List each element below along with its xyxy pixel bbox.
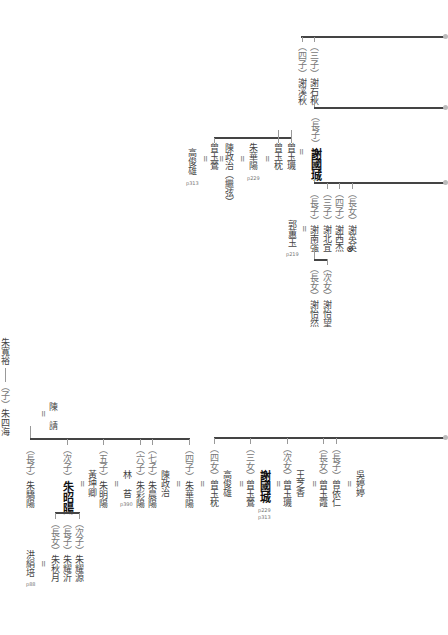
marriage-symbol: = [299,225,309,233]
person-xie-yiran: （長女）謝怡然 [309,264,319,327]
person-zhu-yaoyi: （長子）朱耀沂 [62,519,72,582]
person-wu-tingting: 吳婷婷 [355,470,365,497]
top-generation-line [301,36,446,38]
generation-line [55,512,80,514]
person-xie-guocheng: （長子）謝國城 [309,112,321,181]
deceased-mark-icon: ⊗ [346,244,354,254]
person-xie-yingying: （長女）謝英英 [347,189,357,252]
person-zhu-caiyang: （六子）朱彩陽 [135,445,145,508]
person-xie-guocheng-b: 謝國城 [258,470,270,503]
page-ref: p313 [258,514,271,520]
person-zeng-yuji: 曾玉璣 [286,143,296,170]
marriage-symbol: = [38,410,48,418]
person-zhu-jiaoyang: （長子）朱驕陽 [25,445,35,508]
connector [291,130,292,143]
person-zhu-sihai: （子）朱四海 [0,382,10,436]
marriage-symbol: = [38,560,48,568]
marriage-symbol: = [237,155,247,163]
person-zhu-kuanyu: 朱寬裕 [0,338,10,365]
page-ref: p229 [247,175,260,181]
continuation-marker [443,435,448,440]
person-xie-nanqiang: （長子）謝南強 [309,189,319,252]
marriage-symbol: = [173,480,183,488]
generation-line [30,438,190,440]
person-guo-huiyu: 郭蕙玉 [287,220,297,247]
generation-line [314,107,446,109]
generation-line [314,182,446,184]
page-ref: p313 [186,180,199,186]
spouse-bracket [214,137,292,139]
marriage-symbol: = [262,155,272,163]
generation-line [214,437,446,439]
person-gao-junxiong: 高俊雄 [187,148,197,175]
connector [278,130,279,143]
page-ref: p219 [286,251,299,257]
page-ref: p88 [26,581,36,587]
person-zeng-yuying-b: （三女）曾玉鶯 [245,444,255,507]
person-xie-xijie: （四子）謝西杰 [334,189,344,252]
person-zhu-huayang-b: （四子）朱華陽 [184,445,194,508]
person-zhu-qiuyue: （長女）朱秋月 [50,519,60,582]
person-lin-tai: 林 苔 [122,470,132,498]
continuation-marker [443,180,448,185]
connector [314,246,315,260]
continuation-marker [443,105,448,110]
person-zeng-yuzhen: 曾玉枕 [273,143,283,170]
person-zhu-chenyang: （七子）朱晨陽 [147,445,157,508]
person-zeng-yuzhen-b: （四女）曾玉枕 [209,444,219,507]
person-hong-juanpei: 洪絹培 [25,550,35,577]
person-wang-zhixiang: 王芝香 [295,470,305,497]
person-xie-yiwang: （次女）謝怡望 [322,264,332,327]
marriage-symbol: = [77,480,87,488]
connector [5,368,6,382]
person-chen-zhengzhi-b: 陳政治 [160,470,170,497]
continuation-marker [443,34,448,39]
person-chen-zhengzhi: 陳政治（繼弦） [224,143,234,206]
marriage-symbol: = [296,148,306,156]
connector [67,485,68,513]
person-zhu-huayang: 朱華陽 [248,143,258,170]
connector [30,426,31,438]
marriage-symbol: = [344,480,354,488]
person-xie-beiyi: （三子）謝北宜 [322,189,332,252]
person-chen-qing: 陳 請 [48,402,58,430]
person-zeng-yuji-b: （次女）曾玉璣 [282,444,292,507]
person-xie-xiqiu: （四子）謝溪秋 [297,42,307,105]
page-ref: p390 [120,501,133,507]
person-zhu-mingyang: （五子）朱明陽 [98,445,108,508]
person-zhu-yaoyuan: （次子）朱耀源 [74,519,84,582]
generation-line [314,259,328,261]
marriage-symbol: = [200,155,210,163]
marriage-symbol: = [111,480,121,488]
marriage-symbol: = [197,480,207,488]
person-zeng-yiren: （長子）曾依仁 [331,444,341,507]
person-huang-kunqing: 黃坤卿 [87,470,97,497]
person-gao-junxiong-b: 高俊雄 [222,470,232,497]
person-zeng-yuying: 曾玉鶯 [209,143,219,170]
page-ref: p229 [258,507,271,513]
person-zeng-yuxia: （長女）曾玉霞 [318,444,328,507]
